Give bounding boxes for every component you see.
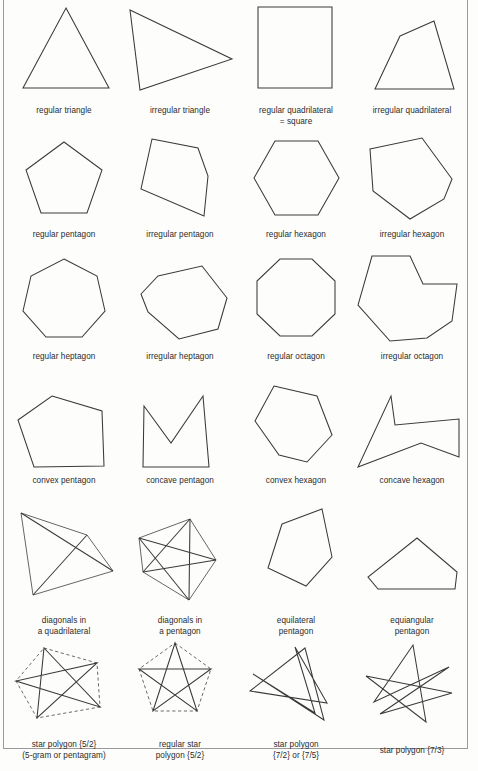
caption-irregular-quadrilateral: irregular quadrilateral [356,94,468,127]
regular-octagon-diagram [240,256,352,340]
caption-line-1: concave hexagon [380,476,445,485]
caption-line-1: equiangular [390,616,433,625]
caption-star-polygon-7-2: star polygon {7/2} or {7/5} [240,728,352,771]
caption-line-2: pentagon [356,626,468,637]
cell-concave-pentagon: concave pentagon [124,378,236,490]
caption-line-1: irregular triangle [150,106,210,115]
regular-quadrilateral-diagram [240,2,352,94]
cell-regular-quadrilateral: regular quadrilateral = square [240,2,352,120]
regular-hexagon-diagram [240,136,352,218]
caption-regular-star-polygon-5-2: regular star polygon {5/2} [124,728,236,771]
caption-line-2: pentagon [240,626,352,637]
caption-line-1: regular hexagon [266,230,326,239]
caption-regular-pentagon: regular pentagon [8,218,120,251]
caption-star-polygon-5-2: star polygon {5/2} (5-gram or pentagram) [8,728,120,771]
cell-irregular-triangle: irregular triangle [124,2,236,120]
cell-irregular-pentagon: irregular pentagon [124,136,236,246]
caption-line-1: regular star [159,740,201,749]
irregular-quadrilateral-diagram [356,2,468,94]
star-polygon-7-2-diagram [240,638,352,728]
caption-irregular-heptagon: irregular heptagon [124,340,236,373]
convex-hexagon-diagram [240,378,352,460]
cell-regular-heptagon: regular heptagon [8,256,120,368]
irregular-octagon-diagram [356,256,468,340]
caption-line-1: irregular pentagon [146,230,213,239]
caption-regular-triangle: regular triangle [8,94,120,127]
cell-regular-hexagon: regular hexagon [240,136,352,246]
cell-equiangular-pentagon: equiangular pentagon [356,500,468,630]
caption-line-1: star polygon [273,740,318,749]
star-polygon-5-2-diagram [8,638,120,728]
cell-equilateral-pentagon: equilateral pentagon [240,500,352,630]
diagonals-quadrilateral-diagram [8,500,120,604]
caption-line-2: {7/2} or {7/5} [240,750,352,761]
geometry-figure: regular triangle irregular triangle [0,0,478,771]
equilateral-pentagon-diagram [240,500,352,604]
irregular-hexagon-diagram [356,136,468,218]
caption-line-1: regular pentagon [33,230,96,239]
concave-pentagon-diagram [124,378,236,460]
concave-hexagon-diagram [356,378,468,460]
irregular-pentagon-diagram [124,136,236,218]
caption-regular-heptagon: regular heptagon [8,340,120,373]
cell-diagonals-pentagon: diagonals in a pentagon [124,500,236,630]
caption-line-2: polygon {5/2} [124,750,236,761]
regular-pentagon-diagram [8,136,120,218]
caption-concave-hexagon: concave hexagon [356,464,468,497]
cell-star-polygon-5-2: star polygon {5/2} (5-gram or pentagram) [8,638,120,768]
caption-line-1: regular heptagon [33,352,96,361]
convex-pentagon-diagram [8,378,120,460]
cell-concave-hexagon: concave hexagon [356,378,468,490]
caption-concave-pentagon: concave pentagon [124,464,236,497]
polygon-grid: regular triangle irregular triangle [0,0,478,771]
caption-line-1: irregular octagon [381,352,443,361]
caption-line-1: convex hexagon [266,476,326,485]
cell-regular-star-polygon-5-2: regular star polygon {5/2} [124,638,236,768]
caption-irregular-pentagon: irregular pentagon [124,218,236,251]
caption-convex-pentagon: convex pentagon [8,464,120,497]
cell-diagonals-quadrilateral: diagonals in a quadrilateral [8,500,120,630]
cell-irregular-hexagon: irregular hexagon [356,136,468,246]
caption-line-1: regular quadrilateral [259,106,333,115]
star-polygon-7-3-diagram [356,638,468,728]
caption-regular-octagon: regular octagon [240,340,352,373]
cell-convex-pentagon: convex pentagon [8,378,120,490]
caption-line-2: a quadrilateral [8,626,120,637]
caption-star-polygon-7-3: star polygon {7/3} [356,734,468,767]
regular-star-polygon-5-2-diagram [124,638,236,728]
cell-star-polygon-7-2: star polygon {7/2} or {7/5} [240,638,352,768]
cell-regular-triangle: regular triangle [8,2,120,120]
caption-line-1: star polygon {5/2} [32,740,97,749]
cell-irregular-quadrilateral: irregular quadrilateral [356,2,468,120]
caption-line-1: diagonals in [158,616,202,625]
cell-regular-pentagon: regular pentagon [8,136,120,246]
caption-line-1: equilateral [277,616,315,625]
caption-line-1: convex pentagon [32,476,95,485]
caption-regular-quadrilateral: regular quadrilateral = square [240,94,352,138]
cell-irregular-octagon: irregular octagon [356,256,468,368]
caption-line-1: irregular heptagon [146,352,213,361]
caption-line-1: concave pentagon [146,476,214,485]
caption-convex-hexagon: convex hexagon [240,464,352,497]
caption-line-2: = square [240,116,352,127]
caption-line-2: a pentagon [124,626,236,637]
caption-line-1: regular octagon [267,352,325,361]
cell-convex-hexagon: convex hexagon [240,378,352,490]
caption-regular-hexagon: regular hexagon [240,218,352,251]
caption-irregular-hexagon: irregular hexagon [356,218,468,251]
irregular-triangle-diagram [124,2,236,94]
caption-irregular-triangle: irregular triangle [124,94,236,127]
irregular-heptagon-diagram [124,256,236,340]
regular-triangle-diagram [8,2,120,94]
caption-irregular-octagon: irregular octagon [356,340,468,373]
cell-regular-octagon: regular octagon [240,256,352,368]
caption-line-1: irregular quadrilateral [373,106,452,115]
regular-heptagon-diagram [8,256,120,340]
equiangular-pentagon-diagram [356,500,468,604]
caption-line-1: star polygon {7/3} [380,746,445,755]
cell-irregular-heptagon: irregular heptagon [124,256,236,368]
caption-line-1: regular triangle [36,106,91,115]
caption-line-2: (5-gram or pentagram) [8,750,120,761]
cell-star-polygon-7-3: star polygon {7/3} [356,638,468,768]
caption-line-1: irregular hexagon [380,230,445,239]
